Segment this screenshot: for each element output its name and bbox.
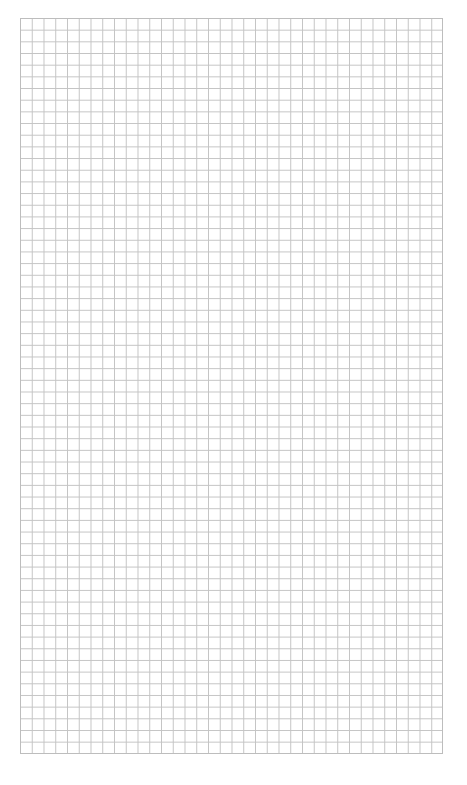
page-header xyxy=(0,1,467,11)
graph-paper-grid xyxy=(20,18,443,754)
